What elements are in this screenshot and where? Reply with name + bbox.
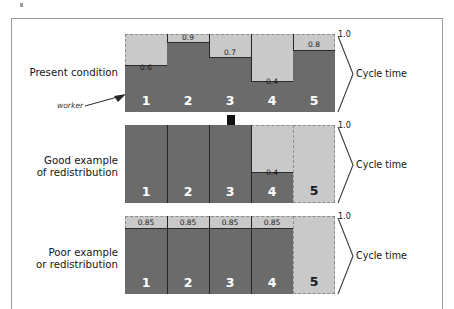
chart-present-condition: 1 0.6 2 0.9 3 0.7 4 0.4 5 0.8	[125, 34, 335, 112]
value-label-3: 0.85	[209, 218, 251, 227]
worker-number-4: 4	[251, 184, 293, 199]
worker-number-5: 5	[293, 93, 335, 108]
value-label-2: 0.85	[167, 218, 209, 227]
bar-divider	[167, 216, 168, 294]
bar-column-4: 4 0.4	[251, 125, 293, 203]
value-label-5: 0.8	[293, 40, 335, 49]
chart-poor-example: 1 0.85 2 0.85 3 0.85 4 0.85 5	[125, 216, 335, 294]
bar-column-3: 3 0.7	[209, 34, 251, 112]
cycle-time-label-1: Cycle time	[356, 68, 407, 79]
bar-column-1: 1 0.85	[125, 216, 167, 294]
bar-column-4: 4 0.4	[251, 34, 293, 112]
bar-column-3: 3 0.85	[209, 216, 251, 294]
bar-column-1: 1	[125, 125, 167, 203]
worker-number-1: 1	[125, 275, 167, 290]
caption-line: Good example	[18, 155, 118, 167]
bar-column-5: 5	[293, 125, 335, 203]
caption-poor-example: Poor example or redistribution	[18, 247, 118, 271]
bar-column-2: 2	[167, 125, 209, 203]
worker-number-1: 1	[125, 93, 167, 108]
cycle-time-bracket-2	[337, 126, 355, 204]
chart-good-example: 1 2 3 4 0.4 5	[125, 125, 335, 203]
pointer-arrow-icon	[85, 93, 127, 109]
worker-number-4: 4	[251, 93, 293, 108]
worker-number-5: 5	[294, 183, 334, 198]
page-artifact-mark	[20, 3, 23, 7]
value-label-4: 0.4	[251, 168, 293, 177]
bar-column-3: 3	[209, 125, 251, 203]
caption-line: Poor example	[18, 247, 118, 259]
bar-divider	[167, 125, 168, 203]
caption-present-condition: Present condition	[26, 67, 118, 79]
worker-number-2: 2	[167, 93, 209, 108]
caption-line: of redistribution	[18, 167, 118, 179]
bar-column-4: 4 0.85	[251, 216, 293, 294]
worker-number-2: 2	[167, 184, 209, 199]
value-label-1: 0.85	[125, 218, 167, 227]
cycle-time-bracket-1	[337, 35, 355, 113]
bar-divider	[251, 216, 252, 294]
value-label-4: 0.4	[251, 77, 293, 86]
value-label-1: 0.6	[125, 63, 167, 72]
value-label-2: 0.9	[167, 33, 209, 42]
bar-column-5: 5 0.8	[293, 34, 335, 112]
worker-number-3: 3	[209, 184, 251, 199]
worker-number-5: 5	[294, 274, 334, 289]
caption-line: Present condition	[26, 67, 118, 79]
bar-column-2: 2 0.9	[167, 34, 209, 112]
worker-number-4: 4	[251, 275, 293, 290]
cycle-time-label-2: Cycle time	[356, 159, 407, 170]
worker-number-2: 2	[167, 275, 209, 290]
value-label-4: 0.85	[251, 218, 293, 227]
cycle-time-bracket-3	[337, 217, 355, 295]
bar-column-1: 1 0.6	[125, 34, 167, 112]
bar-divider	[209, 216, 210, 294]
bar-column-2: 2 0.85	[167, 216, 209, 294]
value-label-3: 0.7	[209, 48, 251, 57]
bar-column-5: 5	[293, 216, 335, 294]
bar-divider	[209, 125, 210, 203]
cycle-time-label-3: Cycle time	[356, 250, 407, 261]
worker-number-1: 1	[125, 184, 167, 199]
figure-frame: 1 0.6 2 0.9 3 0.7 4 0.4 5 0.8	[11, 18, 443, 309]
caption-good-example: Good example of redistribution	[18, 155, 118, 179]
worker-number-3: 3	[209, 275, 251, 290]
caption-line: or redistribution	[18, 259, 118, 271]
bar-divider	[251, 125, 252, 203]
worker-number-3: 3	[209, 93, 251, 108]
worker-annotation-label: worker	[57, 101, 83, 110]
